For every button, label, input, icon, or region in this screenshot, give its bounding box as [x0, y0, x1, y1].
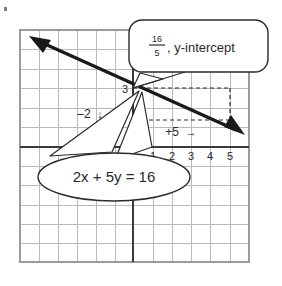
stray-dot-artifact — [4, 7, 7, 11]
fraction-numerator: 16 — [152, 34, 162, 44]
coordinate-plane-figure: 1 2 3 4 5 3 –2 ↓ +5 — [0, 0, 282, 286]
x-tick-label-3: 3 — [188, 150, 194, 162]
run-annotation-label: +5 — [165, 125, 179, 139]
x-tick-label-4: 4 — [207, 150, 213, 162]
x-tick-label-5: 5 — [227, 150, 233, 162]
y-intercept-callout-text: , y-intercept — [167, 40, 235, 55]
rise-annotation: –2 ↓ — [77, 107, 102, 121]
equation-callout-text: 2x + 5y = 16 — [73, 168, 156, 185]
fraction-denominator: 5 — [154, 48, 159, 58]
y-tick-label-3: 3 — [122, 83, 128, 95]
run-annotation-arrow: → — [186, 126, 197, 138]
rise-annotation-label: –2 — [77, 107, 91, 121]
figure-canvas: 1 2 3 4 5 3 –2 ↓ +5 — [0, 0, 282, 286]
